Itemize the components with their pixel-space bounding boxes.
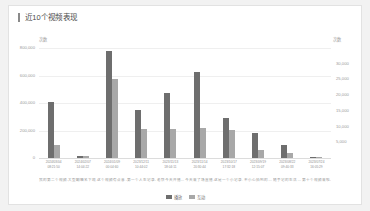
x-axis-tick-label: 2023/10/1717:32:18 [214,160,243,174]
legend-label: 播放 [174,194,182,200]
bar-group[interactable] [156,48,185,158]
bar-interaction-count[interactable] [54,145,60,158]
video-caption: 我的第二个视频… [39,178,68,188]
page-title: 近10个视频表现 [25,11,77,22]
x-axis-tick-label: 2023/08/2209:40:33 [273,160,302,174]
legend-item[interactable]: 互动 [189,194,205,200]
left-axis-tick-label: 0 [33,156,35,160]
video-caption: 老铁今天开播… [156,178,185,188]
bar-group[interactable] [243,48,272,158]
bar-group[interactable] [185,48,214,158]
right-axis-tick-label: 20,000 [336,93,349,97]
bar-interaction-count[interactable] [316,157,322,158]
x-axis-tick-label: 2024/02/0714:04:22 [68,160,97,174]
bar-group[interactable] [214,48,243,158]
right-axis-tick-label: 15,000 [336,109,349,113]
video-performance-card: 近10个视频表现 次数 次数 800,000600,000400,000200,… [8,5,362,205]
card-header: 近10个视频表现 [9,6,361,28]
legend-swatch [166,195,172,199]
bar-groups [39,48,331,158]
bar-interaction-count[interactable] [287,153,293,159]
bar-group[interactable] [97,48,126,158]
bar-interaction-count[interactable] [141,129,147,158]
legend-item[interactable]: 播放 [166,194,182,200]
video-caption: 随手记的生活… [273,178,302,188]
x-axis-labels: 2024/03/0408:21:502024/02/0714:04:222024… [39,160,331,174]
right-axis-tick-label: 25,000 [336,77,349,81]
x-axis-tick-label: 2024/01/0900:04:60 [97,160,126,174]
bar-group[interactable] [68,48,97,158]
bar-group[interactable] [273,48,302,158]
gridline [39,158,331,159]
video-caption: 这是一个小记录… [214,178,243,188]
bar-group[interactable] [302,48,331,158]
video-caption: 第一个人生记录… [127,178,156,188]
x-axis-tick-label: 2024/03/0408:21:50 [39,160,68,174]
bar-interaction-count[interactable] [112,79,118,158]
right-axis-tick-label: 30,000 [336,62,349,66]
bar-interaction-count[interactable] [258,150,264,158]
x-axis-tick-label: 2023/11/1318:04:11 [156,160,185,174]
bar-interaction-count[interactable] [83,156,89,158]
video-caption: 大型翻唱名下现… [68,178,97,188]
bar-group[interactable] [39,48,68,158]
chart-plot-area: 800,000600,000400,000200,0000 30,00025,0… [39,48,331,158]
right-axis-unit-label: 次数 [333,36,341,42]
bar-interaction-count[interactable] [200,128,206,158]
x-axis-tick-label: 2023/07/2416:05:29 [302,160,331,174]
x-axis-tick-label: 2023/09/1912:15:07 [243,160,272,174]
left-axis-tick-label: 400,000 [20,101,35,105]
right-axis-tick-label: 10,000 [336,125,349,129]
x-axis-tick-label: 2023/12/1110:44:02 [127,160,156,174]
video-caption: 第十个视频来啦… [302,178,331,188]
chart-legend: 播放互动 [9,194,361,200]
legend-label: 互动 [197,194,205,200]
right-axis-tick-label: 5,000 [336,140,346,144]
video-captions-row: 我的第二个视频…大型翻唱名下现…这个视频有点意…第一个人生记录…老铁今天开播…今… [39,178,331,188]
bar-interaction-count[interactable] [229,130,235,158]
title-accent-bar [18,13,20,22]
bar-group[interactable] [127,48,156,158]
legend-swatch [189,195,195,199]
video-caption: 今天来了场直播… [185,178,214,188]
left-axis-tick-label: 800,000 [20,46,35,50]
page-background: 近10个视频表现 次数 次数 800,000600,000400,000200,… [0,0,370,211]
left-axis-tick-label: 600,000 [20,74,35,78]
video-caption: 这个视频有点意… [97,178,126,188]
bar-interaction-count[interactable] [170,129,176,158]
video-caption: 不小心拍到的… [243,178,272,188]
left-axis-tick-label: 200,000 [20,129,35,133]
left-axis-unit-label: 次数 [39,36,47,42]
x-axis-tick-label: 2023/11/1420:30:44 [185,160,214,174]
